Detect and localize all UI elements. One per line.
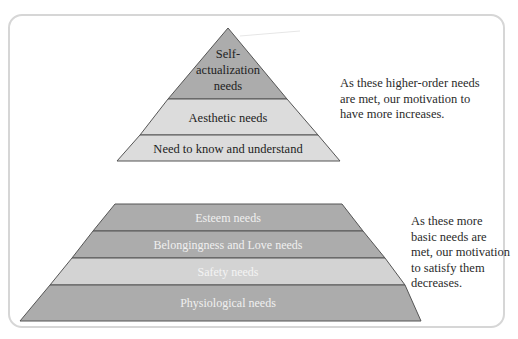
safety-label: Safety needs <box>198 265 259 279</box>
belongingness-label: Belongingness and Love needs <box>154 238 303 252</box>
aesthetic-label: Aesthetic needs <box>189 111 268 125</box>
upper-pyramid: Self- actualization needs Aesthetic need… <box>117 28 340 161</box>
esteem-label: Esteem needs <box>195 211 261 225</box>
physiological-label: Physiological needs <box>180 296 276 310</box>
decorative-line <box>240 31 300 36</box>
self-actualization-label-3: needs <box>214 79 243 93</box>
basic-needs-note: As these more basic needs are met, our m… <box>411 214 511 292</box>
know-understand-label: Need to know and understand <box>153 142 303 156</box>
self-actualization-label-2: actualization <box>196 63 261 77</box>
higher-order-needs-note: As these higher-order needs are met, our… <box>340 76 490 123</box>
self-actualization-label-1: Self- <box>216 47 240 61</box>
lower-pyramid: Esteem needs Belongingness and Love need… <box>20 204 421 321</box>
